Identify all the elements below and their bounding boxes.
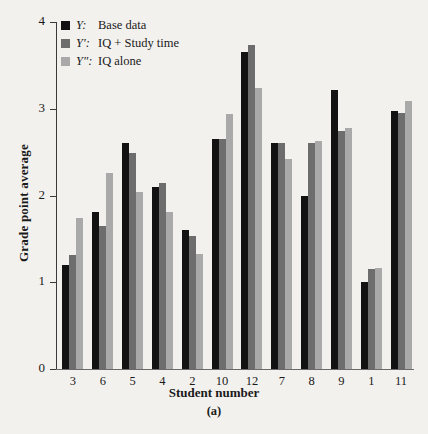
panel-caption: (a) — [0, 404, 428, 419]
y-tick-label: 3 — [39, 100, 46, 116]
bar — [219, 139, 226, 369]
legend: Y:Base dataY′:IQ + Study timeY″:IQ alone — [61, 17, 179, 71]
legend-swatch — [61, 57, 70, 66]
bar — [106, 173, 113, 369]
legend-symbol: Y: — [76, 18, 98, 33]
y-tick-label: 0 — [39, 360, 46, 376]
x-axis-line — [56, 369, 414, 370]
bar-group — [62, 22, 83, 369]
bar — [331, 90, 338, 369]
legend-swatch — [61, 21, 70, 30]
bar-group — [271, 22, 292, 369]
bar — [368, 269, 375, 369]
y-tick-label: 1 — [39, 273, 46, 289]
bar — [278, 143, 285, 369]
bar — [182, 230, 189, 369]
bar — [159, 183, 166, 369]
bar — [338, 131, 345, 369]
legend-item: Y′:IQ + Study time — [61, 35, 179, 51]
x-axis-title: Student number — [0, 385, 428, 401]
bar-group — [241, 22, 262, 369]
bar — [255, 88, 262, 369]
bar — [129, 153, 136, 369]
bar-group — [301, 22, 322, 369]
bar — [271, 143, 278, 369]
bar-group — [331, 22, 352, 369]
legend-item: Y″:IQ alone — [61, 53, 179, 69]
y-tick-0: 0 — [50, 369, 56, 370]
bar — [212, 139, 219, 369]
bar — [76, 218, 83, 369]
bar — [345, 128, 352, 369]
bar — [241, 52, 248, 369]
y-tick-label: 4 — [39, 13, 46, 29]
y-tick-label: 2 — [39, 187, 46, 203]
bar-group — [212, 22, 233, 369]
bar — [69, 255, 76, 369]
y-axis-title: Grade point average — [16, 103, 32, 303]
legend-swatch — [61, 39, 70, 48]
bar-group — [122, 22, 143, 369]
bar — [196, 254, 203, 369]
figure-panel-a: Grade point average 01234 36542101278911… — [0, 0, 428, 434]
bar — [308, 143, 315, 369]
bar — [92, 212, 99, 369]
bar-group — [152, 22, 173, 369]
bar — [248, 45, 255, 369]
bar-groups — [56, 22, 414, 369]
bar — [226, 114, 233, 369]
legend-label: IQ alone — [98, 54, 141, 69]
bar-group — [92, 22, 113, 369]
bar — [152, 187, 159, 369]
bar — [405, 101, 412, 369]
bar-group — [391, 22, 412, 369]
bar — [99, 226, 106, 369]
bar — [62, 265, 69, 369]
bar — [136, 192, 143, 369]
bar — [285, 159, 292, 369]
bar — [361, 282, 368, 369]
plot-area: 01234 365421012789111 — [56, 22, 414, 369]
bar — [122, 143, 129, 369]
bar-group — [182, 22, 203, 369]
legend-label: IQ + Study time — [98, 36, 179, 51]
bar — [189, 236, 196, 369]
legend-label: Base data — [98, 18, 146, 33]
legend-symbol: Y″: — [76, 54, 98, 69]
bar — [375, 268, 382, 369]
bar — [166, 212, 173, 369]
bar — [391, 111, 398, 369]
legend-item: Y:Base data — [61, 17, 179, 33]
bar — [398, 113, 405, 369]
bar-group — [361, 22, 382, 369]
bar — [315, 141, 322, 369]
bar — [301, 196, 308, 370]
legend-symbol: Y′: — [76, 36, 98, 51]
